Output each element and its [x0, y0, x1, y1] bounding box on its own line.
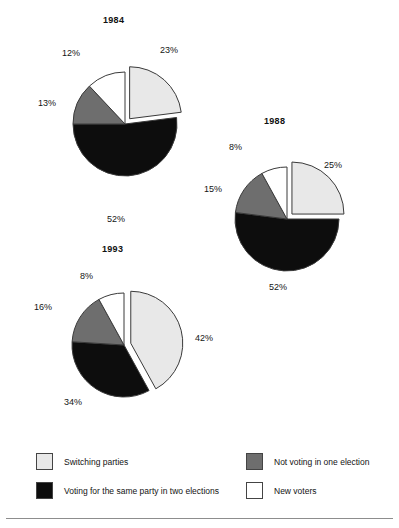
legend-swatch-icon: [36, 453, 53, 470]
slice-value-label: 16%: [34, 302, 52, 312]
slice-value-label: 42%: [195, 333, 213, 343]
legend-column-left: Switching partiesVoting for the same par…: [36, 447, 219, 505]
pie-slice: [235, 212, 339, 271]
legend-swatch-icon: [246, 482, 263, 499]
pie-slice: [73, 117, 177, 176]
slice-value-label: 8%: [229, 142, 242, 152]
chart-legend: Switching partiesVoting for the same par…: [0, 447, 399, 509]
pies-canvas: [0, 0, 399, 440]
slice-value-label: 34%: [64, 397, 82, 407]
slice-value-label: 8%: [80, 271, 93, 281]
slice-value-label: 52%: [107, 214, 125, 224]
footer-rule: [6, 518, 393, 519]
legend-swatch-icon: [246, 453, 263, 470]
pie-1984: [73, 67, 181, 176]
slice-value-label: 15%: [204, 184, 222, 194]
slice-value-label: 23%: [160, 45, 178, 55]
pie-slice: [130, 67, 182, 119]
slice-value-label: 13%: [38, 98, 56, 108]
legend-item-label: Not voting in one election: [274, 457, 369, 467]
legend-swatch-icon: [36, 482, 53, 499]
slice-value-label: 52%: [269, 282, 287, 292]
pie-1993: [72, 291, 183, 397]
pie-1988: [235, 162, 344, 271]
legend-item-label: New voters: [274, 486, 317, 496]
pie-title-1984: 1984: [103, 15, 124, 25]
pie-chart-figure: 198419881993 23%52%13%12%25%52%15%8%42%3…: [0, 0, 399, 528]
legend-item: Voting for the same party in two electio…: [36, 476, 219, 505]
slice-value-label: 12%: [62, 48, 80, 58]
legend-item: New voters: [246, 476, 369, 505]
pie-title-1993: 1993: [102, 244, 123, 254]
slice-value-label: 25%: [324, 160, 342, 170]
legend-item: Not voting in one election: [246, 447, 369, 476]
legend-column-right: Not voting in one electionNew voters: [246, 447, 369, 505]
pie-title-1988: 1988: [264, 116, 285, 126]
legend-item-label: Switching parties: [64, 457, 128, 467]
legend-item-label: Voting for the same party in two electio…: [64, 486, 219, 496]
legend-item: Switching parties: [36, 447, 219, 476]
